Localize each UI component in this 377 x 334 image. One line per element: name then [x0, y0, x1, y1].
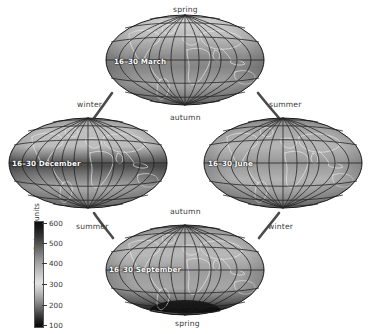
globe-december-label: 16–30 December — [12, 159, 81, 168]
globe-june[interactable]: 16–30 June — [203, 117, 363, 209]
globe-june-label: 16–30 June — [208, 159, 253, 168]
season-label-top: spring — [173, 5, 198, 14]
globe-december[interactable]: 16–30 December — [8, 117, 168, 209]
colorbar-tick — [42, 284, 47, 285]
colorbar-tick-label: 100 — [49, 321, 63, 330]
globe-march-label: 16–30 March — [114, 57, 166, 66]
colorbar-tick-label: 600 — [49, 219, 63, 228]
season-label-upper-right: summer — [269, 100, 302, 109]
figure-canvas: spring winter summer autumn autumn summe… — [0, 0, 377, 334]
colorbar-tick-label: 400 — [49, 259, 63, 268]
colorbar-tick — [42, 243, 47, 244]
season-label-bottom: spring — [175, 319, 200, 328]
colorbar-tick — [42, 325, 47, 326]
colorbar-tick — [42, 263, 47, 264]
colorbar-gradient — [34, 221, 44, 328]
colorbar-tick-label: 500 — [49, 239, 63, 248]
season-label-center-lower: autumn — [170, 207, 201, 216]
globe-march[interactable]: 16–30 March — [105, 14, 265, 106]
colorbar-tick-label: 200 — [49, 301, 63, 310]
globe-september-label: 16–30 September — [109, 265, 181, 274]
season-label-upper-left: winter — [77, 100, 102, 109]
season-label-lower-right: winter — [268, 222, 293, 231]
top-caption-cropped — [26, 0, 206, 4]
colorbar-tick — [42, 223, 47, 224]
season-label-lower-left: summer — [76, 222, 109, 231]
colorbar-tick-label: 300 — [49, 280, 63, 289]
colorbar: total ozone / Dobson units 600 500 400 3… — [8, 218, 70, 330]
globe-september[interactable]: 16–30 September — [105, 224, 265, 316]
colorbar-tick — [42, 305, 47, 306]
season-label-center-upper: autumn — [170, 113, 201, 122]
